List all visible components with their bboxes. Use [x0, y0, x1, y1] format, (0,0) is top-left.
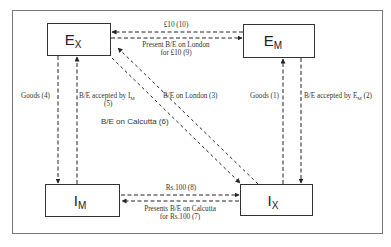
arrow-be-london-ix-to-ex: [118, 48, 258, 184]
node-importer-x: IX: [241, 185, 313, 216]
trade-bill-of-exchange-diagram: EX EM IM IX £10 (10) Present B/E on Lond…: [0, 0, 391, 247]
node-exporter-x: EX: [48, 24, 111, 56]
label-rs100-8: Rs.100 (8): [166, 184, 197, 192]
label-be-london-3: B/E on London (3): [163, 92, 218, 100]
label-accepted-em-2: B/E accepted by EM (2): [304, 92, 373, 101]
label-goods-4: Goods (4): [21, 92, 51, 100]
label-be-calcutta-6: B/E on Calcutta (6): [101, 117, 169, 126]
label-presents-calcutta-7-line2: for Rs.100 (7): [160, 213, 201, 221]
label-present-london-9-line2: for £10 (9): [160, 49, 192, 57]
node-exporter-m: EM: [244, 25, 315, 58]
label-present-london-9-line1: Present B/E on London: [142, 41, 210, 49]
label-accepted-im-5-line2: (5): [104, 100, 113, 108]
label-goods-1: Goods (1): [250, 92, 280, 100]
label-pound10-10: £10 (10): [164, 21, 189, 29]
node-importer-m: IM: [46, 185, 120, 217]
label-presents-calcutta-7-line1: Presents B/E on Calcutta: [144, 205, 216, 213]
